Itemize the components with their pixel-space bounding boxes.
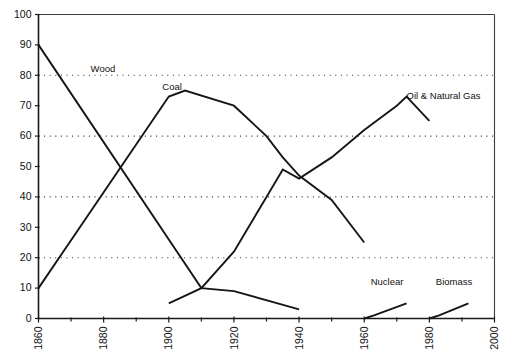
y-tick-label-70: 70 [20, 99, 32, 111]
series-line-coal [39, 91, 365, 289]
y-tick-label-50: 50 [20, 160, 32, 172]
series-line-oil-natural-gas [169, 97, 430, 304]
series-label-oil-natural-gas: Oil & Natural Gas [407, 90, 481, 101]
y-tick-label-20: 20 [20, 251, 32, 263]
y-tick-label-0: 0 [26, 312, 32, 324]
x-tick-label-1880: 1880 [97, 326, 109, 350]
x-tick-label-1940: 1940 [293, 326, 305, 350]
x-tick-label-1960: 1960 [358, 326, 370, 350]
y-tick-label-90: 90 [20, 38, 32, 50]
series-label-wood: Wood [91, 63, 116, 74]
x-tick-label-1900: 1900 [162, 326, 174, 350]
series-label-coal: Coal [162, 81, 182, 92]
axis-lines [39, 15, 495, 319]
chart-canvas: 0102030405060708090100 18601880190019201… [0, 0, 512, 361]
x-axis-ticks [39, 317, 495, 323]
y-tick-label-10: 10 [20, 281, 32, 293]
x-tick-label-1920: 1920 [228, 326, 240, 350]
x-tick-label-2000: 2000 [488, 326, 500, 350]
series-line-biomass [429, 303, 468, 318]
y-tick-label-60: 60 [20, 129, 32, 141]
series-line-nuclear [364, 303, 406, 318]
series-label-biomass: Biomass [436, 276, 473, 287]
series-labels: WoodCoalOil & Natural GasNuclearBiomass [91, 63, 481, 287]
y-tick-label-80: 80 [20, 69, 32, 81]
series-lines [39, 45, 469, 319]
x-tick-label-1860: 1860 [32, 326, 44, 350]
energy-source-share-chart: 0102030405060708090100 18601880190019201… [0, 0, 512, 361]
series-label-nuclear: Nuclear [371, 276, 404, 287]
x-tick-label-1980: 1980 [423, 326, 435, 350]
plot-frame [39, 15, 495, 319]
y-tick-label-40: 40 [20, 190, 32, 202]
y-tick-label-100: 100 [14, 8, 32, 20]
y-tick-label-30: 30 [20, 221, 32, 233]
y-tick-labels: 0102030405060708090100 [14, 8, 32, 324]
x-tick-labels: 18601880190019201940196019802000 [32, 326, 500, 350]
